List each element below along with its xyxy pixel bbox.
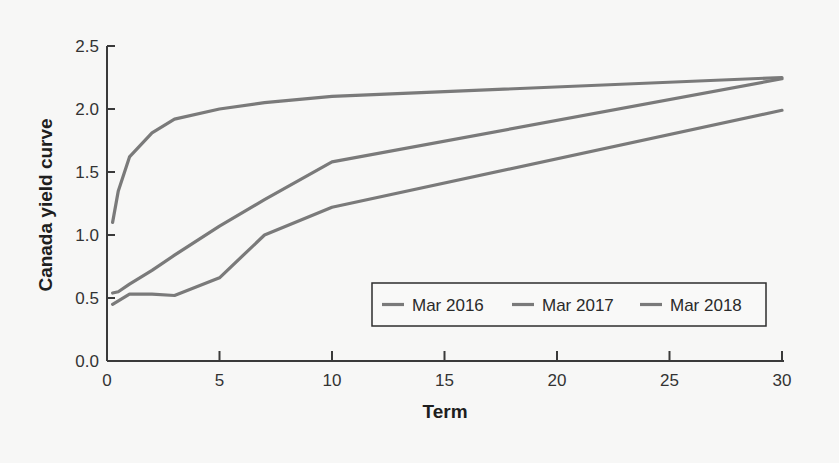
x-tick-label: 10 — [323, 371, 342, 390]
y-axis-title: Canada yield curve — [35, 118, 56, 291]
series-line-mar-2018 — [113, 78, 782, 223]
yield-curve-chart: 0.00.51.01.52.02.5051015202530 Mar 2016M… — [0, 0, 839, 463]
legend-label: Mar 2016 — [412, 296, 484, 315]
y-tick-label: 0.5 — [75, 289, 99, 308]
plot-lines — [113, 78, 782, 305]
y-tick-label: 2.5 — [75, 37, 99, 56]
x-tick-label: 30 — [773, 371, 792, 390]
x-tick-label: 15 — [435, 371, 454, 390]
axes: 0.00.51.01.52.02.5051015202530 — [75, 37, 791, 390]
x-tick-label: 25 — [660, 371, 679, 390]
legend: Mar 2016Mar 2017Mar 2018 — [372, 283, 766, 326]
legend-label: Mar 2018 — [670, 296, 742, 315]
legend-label: Mar 2017 — [542, 296, 614, 315]
x-tick-label: 20 — [548, 371, 567, 390]
y-tick-label: 1.5 — [75, 163, 99, 182]
x-axis-title: Term — [422, 401, 467, 422]
x-tick-label: 5 — [215, 371, 224, 390]
y-tick-label: 0.0 — [75, 352, 99, 371]
x-tick-label: 0 — [102, 371, 111, 390]
y-tick-label: 1.0 — [75, 226, 99, 245]
y-tick-label: 2.0 — [75, 100, 99, 119]
